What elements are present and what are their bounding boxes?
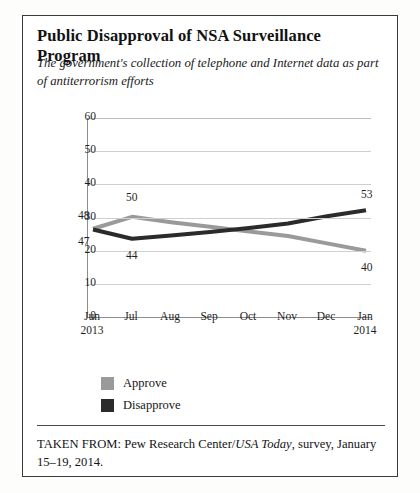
line-chart: 6050403020100 Jun2013JulAugSepOctNovDecJ… <box>37 106 385 346</box>
x-tick-dec: Dec <box>304 310 348 324</box>
x-tick-aug: Aug <box>148 310 192 324</box>
x-tick-jul: Jul <box>109 310 153 324</box>
data-label-approve-jul: 50 <box>126 191 138 203</box>
data-label-disapprove-jan: 53 <box>361 188 373 200</box>
figure-subtitle: The government's collection of telephone… <box>37 54 382 90</box>
source-prefix: TAKEN FROM: Pew Research Center/ <box>37 437 235 451</box>
gridline-50 <box>88 151 371 152</box>
source-divider <box>37 425 385 426</box>
chart-legend: Approve Disapprove <box>101 376 181 420</box>
x-tick-oct: Oct <box>226 310 270 324</box>
legend-label-approve: Approve <box>123 376 167 391</box>
x-tick-nov: Nov <box>265 310 309 324</box>
data-label-approve-jan: 40 <box>361 261 373 273</box>
y-tick-60: 60 <box>68 110 96 122</box>
data-label-approve-jun: 48 <box>78 209 90 221</box>
source-note: TAKEN FROM: Pew Research Center/USA Toda… <box>37 435 382 472</box>
legend-swatch-approve <box>101 377 114 390</box>
legend-item-approve: Approve <box>101 376 181 391</box>
source-publication: USA Today <box>235 437 291 451</box>
chart-plot-area <box>87 118 371 318</box>
x-tick-sep: Sep <box>187 310 231 324</box>
gridline-40 <box>88 184 371 185</box>
y-tick-50: 50 <box>68 143 96 155</box>
data-label-disapprove-jul: 44 <box>126 249 138 261</box>
y-tick-10: 10 <box>68 276 96 288</box>
series-line-disapprove <box>93 210 366 239</box>
figure-frame: Public Disapproval of NSA Surveillance P… <box>22 15 398 477</box>
data-label-disapprove-jun: 47 <box>78 235 90 247</box>
gridline-60 <box>88 118 371 119</box>
series-line-approve <box>93 217 366 251</box>
gridline-30 <box>88 218 371 219</box>
y-tick-40: 40 <box>68 176 96 188</box>
legend-swatch-disapprove <box>101 399 114 412</box>
legend-label-disapprove: Disapprove <box>123 398 181 413</box>
legend-item-disapprove: Disapprove <box>101 398 181 413</box>
gridline-10 <box>88 284 371 285</box>
x-tick-jan: Jan2014 <box>343 310 387 337</box>
figure-page: Public Disapproval of NSA Surveillance P… <box>0 0 420 493</box>
x-tick-jun: Jun2013 <box>70 310 114 337</box>
